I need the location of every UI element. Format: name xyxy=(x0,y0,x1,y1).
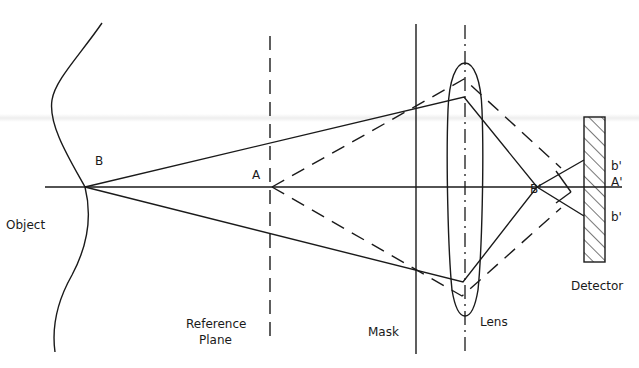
label-point-b: B xyxy=(95,154,103,168)
label-reference-plane-2: Plane xyxy=(199,333,232,347)
optical-diagram: Object B A Reference Plane Mask Lens Det… xyxy=(0,0,639,368)
label-lens: Lens xyxy=(480,315,508,329)
label-reference-plane-1: Reference xyxy=(186,317,246,331)
label-b-prime: B' xyxy=(530,182,542,196)
label-detector: Detector xyxy=(571,279,623,293)
label-object: Object xyxy=(6,218,45,232)
label-b-prime-upper: b' xyxy=(611,159,622,173)
label-a-prime: A' xyxy=(611,175,623,189)
label-b-prime-lower: b' xyxy=(611,210,622,224)
label-mask: Mask xyxy=(368,325,399,339)
label-point-a: A xyxy=(252,168,261,182)
detector xyxy=(584,117,605,262)
